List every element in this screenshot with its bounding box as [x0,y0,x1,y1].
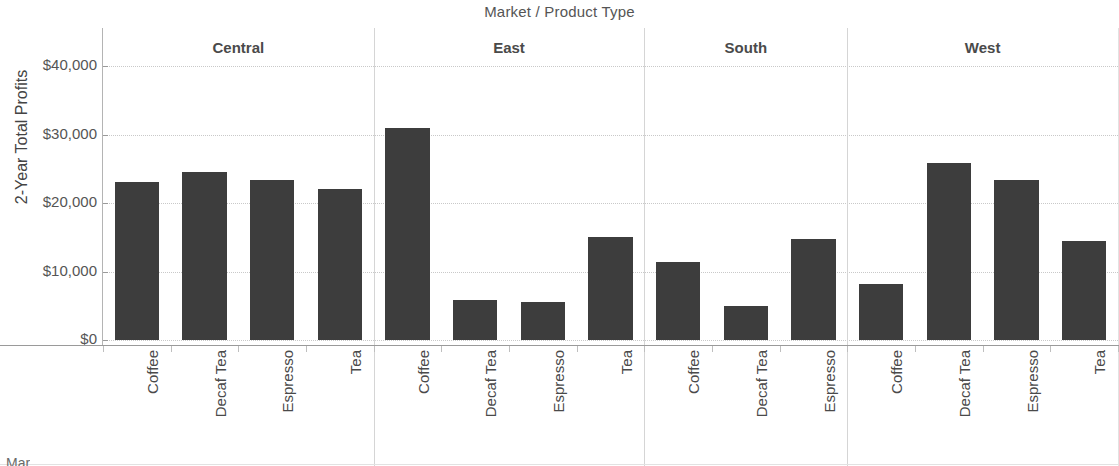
y-tick-mark [103,66,108,67]
panel-header-central: Central [103,28,374,66]
bar[interactable] [994,180,1039,340]
bar[interactable] [453,300,498,340]
bar[interactable] [859,284,904,340]
column-title: Market / Product Type [0,3,1119,20]
x-tick-mark [983,346,984,352]
y-tick-label: $0 [80,330,97,347]
x-category-label: Espresso [821,350,838,413]
y-tick-label: $30,000 [43,125,97,142]
x-tick-mark [1050,346,1051,352]
bar[interactable] [927,163,972,340]
panel-header-band: CentralEastSouthWest [103,28,1118,66]
x-tick-mark [644,346,645,352]
x-tick-mark [238,346,239,352]
y-gridline [103,340,1118,341]
x-category-label: Coffee [888,350,905,394]
bottom-frame-line [0,464,1119,465]
x-tick-mark [441,346,442,352]
bar[interactable] [724,306,769,340]
footer-text-fragment: Mar [6,455,30,466]
x-tick-mark [103,346,104,352]
plot-area [103,66,1118,340]
panel-header-west: West [847,28,1118,66]
bar[interactable] [182,172,227,341]
x-axis-labels-band: CoffeeDecaf TeaEspressoTeaCoffeeDecaf Te… [103,346,1118,465]
y-tick-mark [103,203,108,204]
x-tick-mark [780,346,781,352]
bar[interactable] [521,302,566,340]
x-category-label: Decaf Tea [212,350,229,417]
x-category-label: Coffee [415,350,432,394]
x-category-label: Espresso [1024,350,1041,413]
x-category-label: Decaf Tea [956,350,973,417]
x-tick-mark [374,346,375,352]
y-tick-label: $40,000 [43,56,97,73]
y-tick-mark [103,272,108,273]
x-category-label: Coffee [144,350,161,394]
bar[interactable] [318,189,363,340]
bar[interactable] [1062,241,1107,340]
chart-container: Market / Product Type CentralEastSouthWe… [0,0,1119,466]
x-tick-mark [915,346,916,352]
y-tick-mark [103,340,108,341]
x-category-label: Tea [347,350,364,374]
bar[interactable] [385,128,430,340]
y-axis-title: 2-Year Total Profits [13,27,31,247]
x-tick-mark [577,346,578,352]
x-tick-mark [712,346,713,352]
x-tick-mark [509,346,510,352]
y-tick-label: $10,000 [43,262,97,279]
panel-header-south: South [644,28,847,66]
y-gridline [103,66,1118,67]
x-tick-mark [171,346,172,352]
bar[interactable] [656,262,701,340]
y-gridline [103,135,1118,136]
x-category-label: Tea [1091,350,1108,374]
panel-header-east: East [374,28,645,66]
bar[interactable] [115,182,160,340]
x-category-label: Decaf Tea [482,350,499,417]
x-category-label: Espresso [279,350,296,413]
x-tick-mark [847,346,848,352]
x-category-label: Coffee [685,350,702,394]
bar[interactable] [250,180,295,340]
x-category-label: Espresso [550,350,567,413]
x-category-label: Tea [618,350,635,374]
x-tick-mark [306,346,307,352]
x-category-label: Decaf Tea [753,350,770,417]
bar[interactable] [791,239,836,340]
bar[interactable] [588,237,633,340]
y-tick-label: $20,000 [43,193,97,210]
y-tick-mark [103,135,108,136]
